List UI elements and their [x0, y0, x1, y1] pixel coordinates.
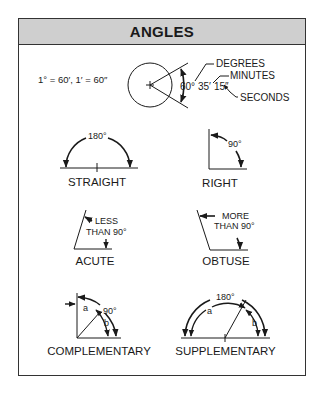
callout-minutes: MINUTES — [230, 71, 275, 81]
straight-annotation: 180° — [88, 131, 107, 141]
example-degrees: 60° — [180, 82, 195, 92]
complementary-label: COMPLEMENTARY — [40, 345, 158, 357]
straight-angle-icon — [60, 138, 138, 172]
example-seconds: 15″ — [214, 82, 229, 92]
obtuse-label: OBTUSE — [196, 255, 256, 267]
complementary-part-b: b — [104, 318, 109, 328]
complementary-part-a: a — [83, 303, 88, 313]
obtuse-annotation-line1: MORE — [222, 211, 249, 221]
supplementary-label: SUPPLEMENTARY — [168, 345, 283, 357]
acute-annotation-line2: THAN 90° — [86, 227, 127, 237]
obtuse-annotation-line2: THAN 90° — [214, 221, 255, 231]
right-label: RIGHT — [195, 177, 245, 189]
supplementary-part-a: a — [207, 306, 212, 316]
callout-degrees: DEGREES — [216, 59, 265, 69]
supplementary-part-b: b — [252, 318, 257, 328]
right-angle-icon — [209, 129, 247, 169]
complementary-annotation: 90° — [103, 306, 117, 316]
acute-annotation-line1: LESS — [95, 216, 118, 226]
supplementary-annotation: 180° — [216, 292, 235, 302]
example-minutes: 35′ — [198, 82, 211, 92]
right-annotation: 90° — [228, 139, 242, 149]
callout-seconds: SECONDS — [240, 93, 289, 103]
straight-label: STRAIGHT — [48, 176, 146, 188]
acute-label: ACUTE — [70, 255, 120, 267]
conversion-formula: 1° = 60′, 1′ = 60″ — [38, 74, 107, 85]
angles-diagram — [0, 0, 327, 393]
